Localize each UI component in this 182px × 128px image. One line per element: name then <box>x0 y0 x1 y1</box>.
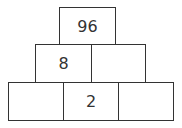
pyramid-cell-middle-left: 8 <box>35 44 92 83</box>
pyramid-cell-bottom-right <box>118 82 174 121</box>
pyramid-cell-top: 96 <box>59 7 116 45</box>
pyramid-cell-bottom-middle: 2 <box>63 82 119 121</box>
pyramid-cell-middle-right <box>91 44 146 83</box>
pyramid-cell-bottom-left <box>8 82 64 121</box>
